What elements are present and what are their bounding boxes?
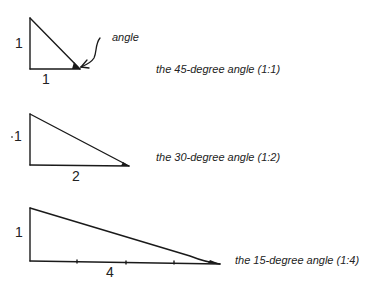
triangle-15-degree: [30, 208, 220, 264]
triangles-figure: [0, 0, 372, 284]
triangle-45-degree: [30, 18, 80, 69]
annotation-angle-label: angle: [112, 32, 139, 43]
vertical-label-30: 1: [14, 129, 22, 143]
horizontal-label-45: 1: [42, 72, 50, 86]
stray-dot: [11, 136, 13, 138]
arrow-icon: [81, 38, 100, 68]
horizontal-label-15: 4: [106, 265, 114, 279]
caption-45-degree: the 45-degree angle (1:1): [156, 64, 280, 75]
horizontal-label-30: 2: [72, 169, 80, 183]
triangle-30-degree: [30, 114, 129, 166]
caption-15-degree: the 15-degree angle (1:4): [235, 255, 359, 266]
caption-30-degree: the 30-degree angle (1:2): [156, 152, 280, 163]
vertical-label-45: 1: [15, 36, 23, 50]
vertical-label-15: 1: [15, 225, 23, 239]
